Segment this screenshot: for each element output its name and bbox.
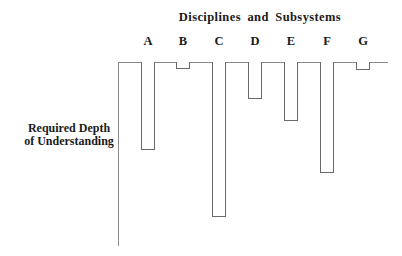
bar-g [356, 62, 370, 70]
bar-a [141, 62, 155, 150]
category-label-c: C [212, 34, 226, 49]
bar-d [248, 62, 262, 99]
category-label-e: E [284, 34, 298, 49]
y-axis-label-line-2: of Understanding [14, 135, 124, 148]
bar-e [284, 62, 298, 121]
category-label-a: A [141, 34, 155, 49]
bar-c [212, 62, 226, 217]
category-label-f: F [320, 34, 334, 49]
y-axis-label: Required Depth of Understanding [14, 122, 124, 148]
y-axis-line [118, 62, 119, 246]
category-label-g: G [356, 34, 370, 49]
category-label-d: D [248, 34, 262, 49]
bar-b [176, 62, 190, 69]
bar-f [320, 62, 334, 173]
chart-title: Disciplines and Subsystems [0, 10, 402, 25]
category-label-b: B [176, 34, 190, 49]
